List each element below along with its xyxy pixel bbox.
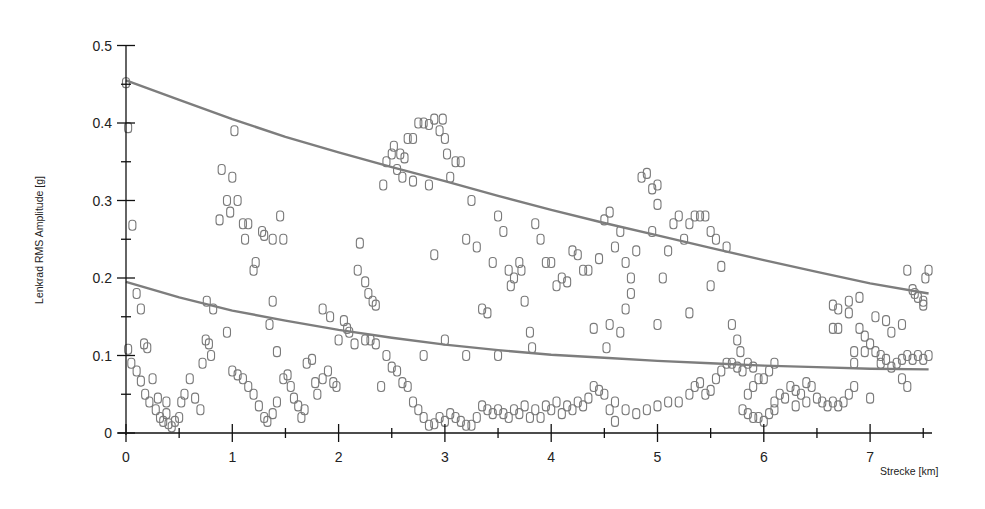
data-point-marker (287, 382, 294, 392)
data-point-marker (665, 397, 672, 407)
y-tick-label: 0.4 (93, 115, 113, 131)
data-point-marker (229, 172, 236, 182)
data-point-marker (425, 180, 432, 190)
data-point-marker (596, 254, 603, 264)
data-point-marker (654, 199, 661, 209)
data-point-marker (872, 312, 879, 322)
data-point-marker (269, 296, 276, 306)
data-point-marker (216, 215, 223, 225)
data-point-marker (622, 405, 629, 415)
data-point-marker (718, 261, 725, 271)
data-point-marker (526, 327, 533, 337)
y-tick-label: 0.2 (93, 270, 113, 286)
data-point-marker (500, 227, 507, 237)
data-point-marker (137, 304, 144, 314)
data-point-marker (463, 351, 470, 361)
data-point-marker (149, 374, 156, 384)
data-point-marker (186, 374, 193, 384)
data-point-marker (227, 207, 234, 217)
data-point-marker (397, 149, 404, 159)
data-point-marker (468, 196, 475, 206)
data-point-marker (633, 246, 640, 256)
data-point-marker (327, 312, 334, 322)
x-tick-label: 4 (547, 449, 555, 465)
data-point-marker (242, 234, 249, 244)
data-point-marker (728, 320, 735, 330)
data-point-marker (431, 419, 438, 429)
data-point-marker (255, 401, 262, 411)
x-axis-ticks: 01234567 (122, 424, 923, 465)
data-point-marker (197, 405, 204, 415)
data-point-marker (284, 370, 291, 380)
x-tick-label: 2 (335, 449, 343, 465)
mean-fit-line (126, 282, 929, 370)
data-point-marker (686, 308, 693, 318)
data-point-marker (659, 273, 666, 283)
y-tick-label: 0.5 (93, 38, 113, 54)
data-point-marker (154, 393, 161, 403)
data-point-marker (495, 211, 502, 221)
y-tick-label: 0 (104, 425, 112, 441)
data-point-marker (356, 238, 363, 248)
data-point-marker (133, 289, 140, 299)
data-point-marker (163, 397, 170, 407)
data-point-marker (319, 304, 326, 314)
data-point-marker (603, 343, 610, 353)
data-point-marker (231, 126, 238, 136)
data-point-marker (904, 265, 911, 275)
x-tick-label: 6 (760, 449, 768, 465)
data-point-marker (354, 265, 361, 275)
data-point-marker (845, 296, 852, 306)
x-tick-label: 3 (441, 449, 449, 465)
data-point-marker (335, 335, 342, 345)
data-point-marker (383, 351, 390, 361)
data-point-marker (280, 234, 287, 244)
axes: 00.10.20.30.40.5 01234567 (93, 38, 932, 466)
data-point-marker (425, 120, 432, 130)
data-point-marker (473, 242, 480, 252)
data-point-marker (378, 382, 385, 392)
data-point-marker (654, 401, 661, 411)
data-point-marker (401, 153, 408, 163)
data-point-marker (883, 316, 890, 326)
data-point-marker (590, 323, 597, 333)
data-point-marker (611, 416, 618, 426)
data-point-marker (431, 114, 438, 124)
data-point-marker (314, 389, 321, 399)
data-point-marker (277, 211, 284, 221)
data-point-marker (312, 378, 319, 388)
data-point-marker (627, 273, 634, 283)
data-point-marker (431, 250, 438, 260)
data-point-marker (622, 258, 629, 268)
data-point-marker (362, 277, 369, 287)
data-point-marker (444, 149, 451, 159)
data-point-marker (495, 351, 502, 361)
data-point-marker (259, 227, 266, 237)
data-point-marker (622, 304, 629, 314)
data-point-marker (129, 220, 136, 230)
data-point-marker (410, 176, 417, 186)
data-point-marker (606, 320, 613, 330)
data-point-marker (223, 196, 230, 206)
y-axis-title: Lenkrad RMS Amplitude [g] (33, 176, 45, 304)
data-point-marker (137, 376, 144, 386)
data-point-marker (439, 114, 446, 124)
data-point-marker (675, 397, 682, 407)
data-point-marker (532, 219, 539, 229)
data-point-marker (280, 374, 287, 384)
data-point-marker (273, 347, 280, 357)
x-tick-label: 5 (654, 449, 662, 465)
data-point-marker (380, 180, 387, 190)
data-point-marker (489, 258, 496, 268)
data-point-marker (199, 358, 206, 368)
plot-area (123, 78, 933, 432)
data-point-marker (521, 296, 528, 306)
data-point-marker (266, 320, 273, 330)
data-point-marker (898, 320, 905, 330)
y-tick-label: 0.1 (93, 348, 113, 364)
x-tick-label: 1 (228, 449, 236, 465)
data-point-marker (420, 351, 427, 361)
data-point-marker (269, 234, 276, 244)
data-point-marker (867, 393, 874, 403)
data-point-marker (643, 405, 650, 415)
